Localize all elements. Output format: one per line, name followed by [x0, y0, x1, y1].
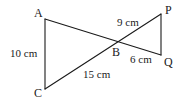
point-label-b: B — [112, 45, 120, 59]
point-label-p: P — [165, 3, 172, 17]
length-label-bq: 6 cm — [130, 53, 152, 65]
point-label-q: Q — [164, 55, 173, 69]
point-label-a: A — [34, 6, 43, 20]
length-label-bc: 15 cm — [83, 68, 111, 80]
point-label-c: C — [34, 86, 42, 100]
length-label-ac: 10 cm — [10, 47, 38, 59]
segment-aq — [45, 19, 161, 55]
geometry-diagram: A B C P Q 10 cm 9 cm 6 cm 15 cm — [0, 0, 184, 100]
length-label-bp: 9 cm — [117, 16, 139, 28]
